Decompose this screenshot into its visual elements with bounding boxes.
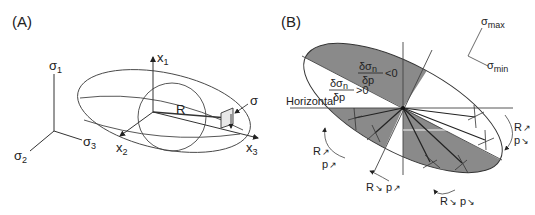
horizontal-label: Horizontal	[286, 95, 336, 107]
figure-canvas: (A) σ1 σ3 σ2 x1 x2 x3 R	[0, 0, 535, 215]
svg-text:δσn: δσn	[330, 77, 348, 91]
x3-label: x3	[246, 140, 258, 157]
rotation-label-left-p: p↗	[322, 158, 337, 170]
svg-text:δp: δp	[333, 91, 345, 103]
panel-a: (A) σ1 σ3 σ2 x1 x2 x3 R	[12, 13, 258, 166]
panel-a-label: (A)	[12, 13, 32, 30]
sigma2-label: σ2	[14, 148, 27, 165]
panel-b-label: (B)	[281, 13, 301, 30]
rotation-label-bottom-left: R↘p↗	[366, 181, 401, 193]
panel-b: (B)	[280, 13, 531, 207]
rotation-label-left-r: R↗	[313, 145, 330, 157]
x1-label: x1	[157, 50, 169, 67]
principal-stress-axes	[30, 74, 82, 151]
stress-orientation-indicator	[468, 28, 488, 66]
svg-text:>0: >0	[356, 84, 369, 96]
rotation-label-bottom-right: R↘p↘	[440, 195, 475, 207]
rotation-label-right-r: R↗	[514, 121, 531, 133]
surface-element	[221, 104, 248, 128]
rotation-label-right-p: p↘	[514, 134, 529, 146]
origin-point	[401, 106, 405, 110]
sigma-max-label: σmax	[481, 15, 505, 30]
stress-vector-label: σ	[250, 93, 258, 108]
x2-label: x2	[116, 140, 128, 157]
sigma3-label: σ3	[83, 134, 96, 151]
svg-text:<0: <0	[385, 67, 398, 79]
sigma1-label: σ1	[49, 58, 62, 75]
radius-label: R	[176, 102, 185, 117]
sigma-min-label: σmin	[487, 59, 508, 74]
